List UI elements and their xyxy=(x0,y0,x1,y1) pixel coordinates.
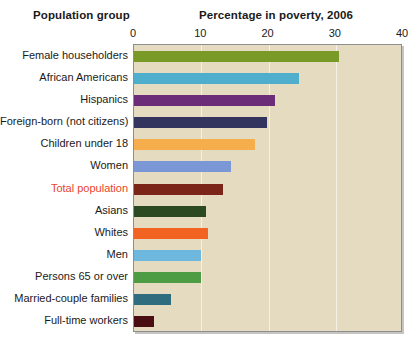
bar xyxy=(134,272,201,283)
x-tick-label: 30 xyxy=(329,27,341,39)
chart-title: Percentage in poverty, 2006 xyxy=(199,9,353,21)
bar xyxy=(134,95,275,106)
bar xyxy=(134,139,255,150)
bar-series xyxy=(134,45,401,331)
bar xyxy=(134,294,171,305)
plot-area xyxy=(133,44,402,332)
bar xyxy=(134,206,206,217)
bar xyxy=(134,250,201,261)
category-label: Total population xyxy=(0,183,128,194)
x-axis-tick-labels: 010203040 xyxy=(133,27,402,43)
bar xyxy=(134,161,231,172)
bar xyxy=(134,117,267,128)
bar xyxy=(134,316,154,327)
x-tick-label: 10 xyxy=(194,27,206,39)
x-tick-label: 0 xyxy=(130,27,136,39)
category-label: Hispanics xyxy=(0,94,128,105)
category-label: Foreign-born (not citizens) xyxy=(0,116,128,127)
category-label: Whites xyxy=(0,227,128,238)
category-label: Asians xyxy=(0,205,128,216)
poverty-bar-chart: Population group Percentage in poverty, … xyxy=(0,0,412,350)
category-label: Female householders xyxy=(0,50,128,61)
bar xyxy=(134,184,223,195)
bar xyxy=(134,51,339,62)
x-tick-label: 20 xyxy=(261,27,273,39)
category-label: Men xyxy=(0,249,128,260)
category-label: African Americans xyxy=(0,72,128,83)
category-axis-labels: Female householdersAfrican AmericansHisp… xyxy=(0,44,128,332)
population-group-header: Population group xyxy=(33,9,130,21)
category-label: Persons 65 or over xyxy=(0,271,128,282)
category-label: Married-couple families xyxy=(0,293,128,304)
category-label: Children under 18 xyxy=(0,138,128,149)
category-label: Full-time workers xyxy=(0,315,128,326)
bar xyxy=(134,73,299,84)
x-tick-label: 40 xyxy=(396,27,408,39)
category-label: Women xyxy=(0,160,128,171)
bar xyxy=(134,228,208,239)
